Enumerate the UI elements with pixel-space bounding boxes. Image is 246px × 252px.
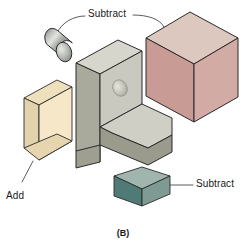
label-add: Add — [6, 190, 24, 201]
label-subtract-bottom: Subtract — [196, 178, 234, 189]
label-subtract-top: Subtract — [88, 8, 126, 19]
csg-operations-figure — [0, 0, 246, 252]
figure-caption: (B) — [0, 228, 246, 238]
